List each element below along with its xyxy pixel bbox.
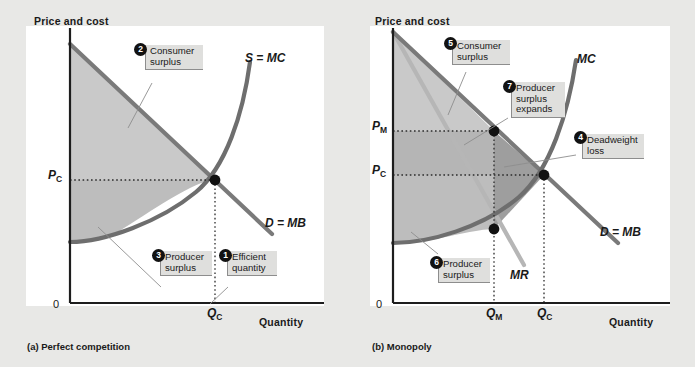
callout-producer-surplus-line-1: Producer: [443, 259, 485, 270]
origin-label: 0: [376, 298, 382, 310]
supply-curve-label: S = MC: [245, 51, 285, 65]
x-tick-quantity-competitive-text: Q: [207, 306, 216, 320]
x-tick-quantity-competitive: QC: [537, 306, 552, 322]
callout-efficient-quantity-line-2: quantity: [232, 263, 272, 274]
callout-consumer-surplus: Consumer surplus: [452, 40, 510, 65]
x-tick-quantity-competitive-sub: C: [216, 312, 222, 322]
badge-2: 2: [134, 43, 147, 56]
badge-6: 6: [430, 256, 443, 269]
callout-producer-surplus: Producer surplus: [438, 258, 490, 283]
y-tick-price-monopoly-sub: M: [380, 125, 387, 135]
callout-producer-surplus-line-2: surplus: [443, 270, 485, 281]
y-tick-price-competitive-text: P: [48, 168, 56, 182]
y-axis-title: Price and cost: [34, 15, 109, 27]
y-tick-price-competitive-sub: C: [56, 174, 62, 184]
demand-curve-label: D = MB: [265, 216, 306, 230]
callout-producer-surplus-line-2: surplus: [165, 263, 207, 274]
panel-a-caption: (a) Perfect competition: [27, 341, 130, 352]
panel-b-plot: [348, 0, 695, 367]
competitive-equilibrium-point: [539, 170, 550, 181]
callout-efficient-quantity-line-1: Efficient: [232, 252, 272, 263]
x-axis-title: Quantity: [609, 316, 653, 328]
monopoly-output-point: [489, 224, 500, 235]
economics-figure: Price and cost Quantity 0 PC QC S = MC D…: [0, 0, 695, 367]
badge-5: 5: [444, 37, 457, 50]
x-tick-quantity-monopoly-text: Q: [486, 306, 495, 320]
callout-consumer-surplus-line-2: surplus: [150, 57, 198, 68]
callout-producer-surplus-expands-line-3: expands: [516, 104, 560, 115]
y-tick-price-competitive-sub: C: [380, 169, 386, 179]
x-tick-quantity-competitive-sub: C: [546, 312, 552, 322]
callout-deadweight-loss: Deadweight loss: [582, 134, 644, 159]
callout-producer-surplus-line-1: Producer: [165, 252, 207, 263]
callout-consumer-surplus-line-2: surplus: [457, 52, 505, 63]
y-axis-title: Price and cost: [375, 15, 450, 27]
y-tick-price-competitive: PC: [372, 163, 386, 179]
marginal-cost-curve-label: MC: [577, 52, 596, 66]
callout-producer-surplus-expands: Producer surplus expands: [511, 82, 565, 118]
y-tick-price-monopoly: PM: [372, 119, 387, 135]
callout-consumer-surplus-line-1: Consumer: [457, 41, 505, 52]
y-tick-price-competitive-text: P: [372, 163, 380, 177]
x-tick-quantity-monopoly: QM: [486, 306, 502, 322]
y-tick-price-competitive: PC: [48, 168, 62, 184]
panel-perfect-competition: Price and cost Quantity 0 PC QC S = MC D…: [0, 0, 347, 367]
equilibrium-point: [210, 175, 221, 186]
callout-deadweight-loss-line-1: Deadweight: [587, 135, 639, 146]
origin-label: 0: [53, 298, 59, 310]
producer-surplus-expands-region: [393, 131, 494, 175]
panel-monopoly: Price and cost Quantity 0 PM PC QM QC MC…: [348, 0, 695, 367]
badge-7: 7: [503, 80, 516, 93]
callout-deadweight-loss-line-2: loss: [587, 146, 639, 157]
callout-producer-surplus-expands-line-1: Producer: [516, 83, 560, 94]
x-tick-quantity-competitive: QC: [207, 306, 222, 322]
badge-1: 1: [219, 249, 232, 262]
demand-curve-label: D = MB: [600, 225, 641, 239]
callout-consumer-surplus: Consumer surplus: [145, 45, 203, 70]
panel-b-caption: (b) Monopoly: [372, 341, 432, 352]
marginal-revenue-curve-label: MR: [510, 268, 529, 282]
x-tick-quantity-competitive-text: Q: [537, 306, 546, 320]
monopoly-price-point: [489, 126, 500, 137]
badge-4: 4: [574, 131, 587, 144]
x-tick-quantity-monopoly-sub: M: [495, 312, 502, 322]
callout-efficient-quantity: Efficient quantity: [227, 251, 277, 276]
y-tick-price-monopoly-text: P: [372, 119, 380, 133]
badge-3: 3: [152, 249, 165, 262]
x-axis-title: Quantity: [259, 316, 303, 328]
callout-consumer-surplus-line-1: Consumer: [150, 46, 198, 57]
callout-producer-surplus: Producer surplus: [160, 251, 212, 276]
